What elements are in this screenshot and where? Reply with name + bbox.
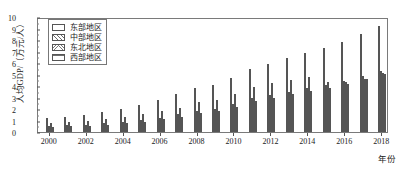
x-tick-label: 2012: [262, 137, 278, 146]
bar: [366, 79, 368, 132]
y-tick-label: 9: [0, 25, 16, 34]
x-tick-mark: [381, 133, 382, 136]
bar-group: [138, 19, 146, 132]
bar-group: [120, 19, 128, 132]
bar-group: [286, 19, 294, 132]
y-tick-mark: [37, 18, 40, 19]
y-tick-mark: [37, 110, 40, 111]
x-tick-label: 2000: [41, 137, 57, 146]
bar: [218, 111, 220, 132]
y-tick-mark: [37, 52, 40, 53]
bar-group: [194, 19, 202, 132]
bar-group: [304, 19, 312, 132]
legend-swatch-east-icon: [52, 24, 65, 31]
y-tick-label: 2: [0, 106, 16, 115]
x-tick-mark: [160, 133, 161, 136]
x-tick-mark: [344, 133, 345, 136]
x-tick-label: 2016: [336, 137, 352, 146]
bar: [255, 101, 257, 132]
y-tick-minor: [37, 81, 39, 82]
bar: [292, 94, 294, 132]
x-tick-label: 2014: [299, 137, 315, 146]
legend-swatch-central-icon: [52, 34, 65, 41]
y-tick-label: 10: [0, 14, 16, 23]
y-tick-mark: [37, 41, 40, 42]
bar-group: [249, 19, 257, 132]
x-tick-label: 2006: [152, 137, 168, 146]
bar-group: [175, 19, 183, 132]
bar: [200, 113, 202, 132]
legend-label-central: 中部地区: [70, 33, 102, 42]
x-tick-mark: [49, 133, 50, 136]
bar-group: [157, 19, 165, 132]
bar-group: [230, 19, 238, 132]
bar: [144, 122, 146, 132]
legend-item-east[interactable]: 东部地区: [52, 22, 102, 32]
bar: [310, 91, 312, 132]
x-tick-label: 2002: [78, 137, 94, 146]
regional-gdp-per-capita-chart: 人均GDP/（万元/人） 年份 东部地区 中部地区 东北地区 西部地区 0123…: [0, 0, 406, 171]
x-tick-mark: [233, 133, 234, 136]
bar: [107, 125, 109, 132]
bar: [273, 98, 275, 132]
y-tick-label: 1: [0, 117, 16, 126]
y-tick-minor: [37, 35, 39, 36]
x-tick-label: 2018: [373, 137, 389, 146]
x-axis-title: 年份: [378, 152, 396, 164]
y-tick-label: 0: [0, 129, 16, 138]
x-tick-label: 2004: [115, 137, 131, 146]
bar: [329, 88, 331, 132]
x-tick-mark: [86, 133, 87, 136]
bar-group: [267, 19, 275, 132]
legend-item-central[interactable]: 中部地区: [52, 32, 102, 42]
bar: [89, 126, 91, 132]
y-tick-mark: [37, 133, 40, 134]
legend-swatch-northeast-icon: [52, 44, 65, 51]
y-tick-label: 4: [0, 83, 16, 92]
legend-item-west[interactable]: 西部地区: [52, 52, 102, 62]
y-axis-title: 人均GDP/（万元/人）: [15, 1, 25, 121]
bar: [70, 126, 72, 132]
legend-label-east: 东部地区: [70, 23, 102, 32]
y-tick-mark: [37, 29, 40, 30]
y-tick-minor: [37, 69, 39, 70]
y-tick-minor: [37, 127, 39, 128]
legend-label-west: 西部地区: [70, 53, 102, 62]
bar-group: [378, 19, 386, 132]
x-tick-label: 2010: [225, 137, 241, 146]
y-tick-label: 5: [0, 71, 16, 80]
y-tick-mark: [37, 75, 40, 76]
bar: [163, 119, 165, 132]
y-tick-minor: [37, 104, 39, 105]
y-tick-mark: [37, 87, 40, 88]
x-tick-mark: [197, 133, 198, 136]
y-tick-mark: [37, 64, 40, 65]
y-tick-minor: [37, 58, 39, 59]
legend-swatch-west-icon: [52, 54, 65, 61]
y-tick-label: 6: [0, 60, 16, 69]
bar: [347, 84, 349, 132]
x-tick-label: 2008: [189, 137, 205, 146]
y-tick-minor: [37, 115, 39, 116]
x-tick-mark: [307, 133, 308, 136]
bar: [181, 117, 183, 132]
x-tick-mark: [270, 133, 271, 136]
legend: 东部地区 中部地区 东北地区 西部地区: [48, 19, 107, 65]
bar: [384, 74, 386, 132]
bar-group: [323, 19, 331, 132]
bar: [126, 123, 128, 132]
y-tick-label: 3: [0, 94, 16, 103]
bar: [52, 127, 54, 132]
bar-group: [212, 19, 220, 132]
y-tick-minor: [37, 46, 39, 47]
y-tick-mark: [37, 121, 40, 122]
bar-group: [360, 19, 368, 132]
legend-item-northeast[interactable]: 东北地区: [52, 42, 102, 52]
bar-group: [341, 19, 349, 132]
y-tick-minor: [37, 23, 39, 24]
x-tick-mark: [123, 133, 124, 136]
y-tick-label: 8: [0, 37, 16, 46]
legend-label-northeast: 东北地区: [70, 43, 102, 52]
y-tick-mark: [37, 98, 40, 99]
y-tick-minor: [37, 92, 39, 93]
